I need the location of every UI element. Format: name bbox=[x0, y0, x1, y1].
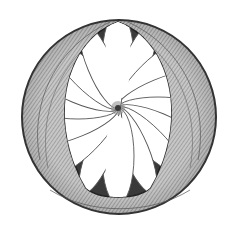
sketch-canvas bbox=[0, 0, 235, 230]
rosette-sketch bbox=[0, 0, 235, 230]
rosette-center bbox=[111, 101, 125, 115]
